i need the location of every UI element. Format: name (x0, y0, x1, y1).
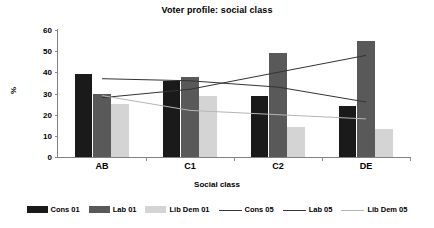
legend-item-label: Lab 01 (113, 205, 137, 214)
legend-swatch-cons (27, 206, 48, 213)
y-axis-tick-label: 50 (30, 47, 52, 56)
legend-item-label: Lab 05 (309, 205, 333, 214)
legend-item[interactable]: Lib Dem 01 (145, 205, 209, 214)
legend-item-label: Cons 01 (51, 205, 80, 214)
line-series (102, 96, 366, 119)
legend-item-label: Cons 05 (245, 205, 274, 214)
y-axis-tick-label: 20 (30, 110, 52, 119)
legend-swatch-lab (89, 206, 110, 213)
legend-line-swatch (341, 206, 364, 213)
chart-legend: Cons 01Lab 01Lib Dem 01Cons 05Lab 05Lib … (0, 205, 434, 214)
x-axis-tick-label: C2 (248, 161, 308, 171)
y-axis-tick-label: 30 (30, 89, 52, 98)
legend-swatch-libdem (145, 206, 166, 213)
y-axis-label: % (9, 87, 18, 94)
line-series (102, 55, 366, 97)
legend-item[interactable]: Cons 05 (219, 205, 274, 214)
line-series (102, 79, 366, 102)
plot-area (58, 30, 410, 157)
legend-item[interactable]: Lab 05 (283, 205, 333, 214)
x-axis-tick-mark (234, 157, 235, 161)
chart-title: Voter profile: social class (0, 5, 434, 15)
y-axis-tick-mark (55, 157, 58, 158)
legend-item-label: Lib Dem 05 (367, 205, 407, 214)
x-axis-tick-label: AB (72, 161, 132, 171)
line-series-layer (58, 30, 410, 157)
x-axis-tick-label: DE (336, 161, 396, 171)
x-axis-tick-mark (146, 157, 147, 161)
legend-item[interactable]: Cons 01 (27, 205, 80, 214)
x-axis-label: Social class (0, 180, 434, 189)
legend-item[interactable]: Lab 01 (89, 205, 137, 214)
legend-item[interactable]: Lib Dem 05 (341, 205, 407, 214)
y-axis-tick-label: 60 (30, 26, 52, 35)
legend-line-swatch (219, 206, 242, 213)
chart-container: Voter profile: social class % Social cla… (0, 0, 434, 228)
x-axis-tick-mark (322, 157, 323, 161)
y-axis-tick-label: 40 (30, 68, 52, 77)
x-axis-tick-mark (410, 157, 411, 161)
legend-item-label: Lib Dem 01 (169, 205, 209, 214)
legend-line-swatch (283, 206, 306, 213)
y-axis-tick-label: 10 (30, 131, 52, 140)
y-axis-tick-label: 0 (30, 153, 52, 162)
x-axis-tick-label: C1 (160, 161, 220, 171)
